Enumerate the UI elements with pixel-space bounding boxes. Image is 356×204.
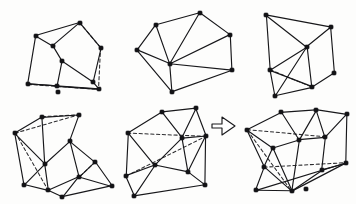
vertex-dot [230, 68, 234, 72]
vertex-dot [305, 45, 309, 49]
vertex-dot [13, 131, 17, 135]
vertex-dot [204, 134, 208, 138]
vertex-dot [99, 46, 103, 50]
vertex-dot [40, 115, 44, 119]
vertex-dot [271, 146, 275, 150]
vertex-dot [329, 25, 333, 29]
vertex-dot [320, 168, 324, 172]
vertex-dot [198, 11, 202, 15]
vertex-dot [34, 34, 38, 38]
vertex-dot [132, 194, 136, 198]
visible-edge [256, 190, 292, 191]
vertex-dot [51, 44, 55, 48]
vertex-dot [43, 162, 47, 166]
vertex-dot [77, 113, 81, 117]
vertex-dot [264, 13, 268, 17]
vertex-dot [304, 187, 308, 191]
visible-edge [205, 136, 206, 184]
vertex-dot [194, 106, 198, 110]
vertex-dot [110, 184, 114, 188]
vertex-dot [97, 87, 101, 91]
vertex-dot [126, 131, 130, 135]
vertex-dot [345, 112, 349, 116]
vertex-dot [78, 21, 82, 25]
vertex-dot [279, 110, 283, 114]
vertex-dot [153, 163, 157, 167]
vertex-dot [168, 62, 172, 66]
vertex-dot [22, 183, 26, 187]
vertex-dot [228, 33, 232, 37]
vertex-dot [297, 138, 301, 142]
vertex-dot [135, 48, 139, 52]
vertex-dot [154, 23, 158, 27]
vertex-dot [60, 195, 64, 199]
vertex-dot [203, 183, 207, 187]
vertex-dot [254, 188, 258, 192]
vertex-dot [323, 135, 327, 139]
vertex-dot [268, 68, 272, 72]
vertex-dot [180, 136, 184, 140]
vertex-dot [332, 71, 336, 75]
vertex-dot [344, 161, 348, 165]
vertex-dot [262, 165, 266, 169]
figure-panel [0, 0, 356, 204]
polyhedra-diagram-svg [0, 0, 356, 204]
vertex-dot [93, 160, 97, 164]
vertex-dot [46, 188, 50, 192]
vertex-dot [160, 110, 164, 114]
vertex-dot [55, 84, 59, 88]
vertex-dot [170, 90, 174, 94]
vertex-dot [91, 80, 95, 84]
vertex-dot [56, 90, 60, 94]
vertex-dot [124, 174, 128, 178]
vertex-dot [273, 94, 277, 98]
vertex-dot [310, 85, 314, 89]
vertex-dot [60, 59, 64, 63]
vertex-dot [245, 128, 249, 132]
vertex-dot [26, 82, 30, 86]
vertex-dot [68, 139, 72, 143]
vertex-dot [314, 108, 318, 112]
vertex-dot [290, 189, 294, 193]
vertex-dot [77, 175, 81, 179]
vertex-dot [186, 170, 190, 174]
